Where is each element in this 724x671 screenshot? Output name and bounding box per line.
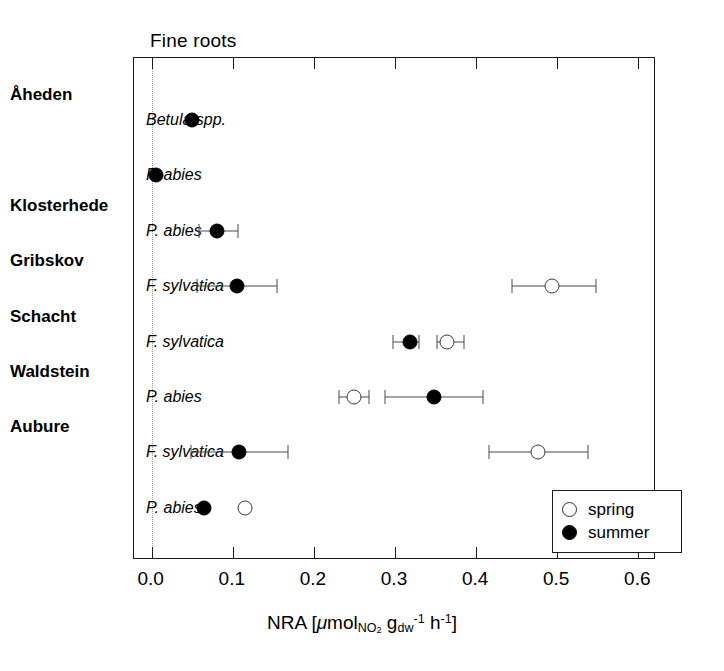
x-tick-label-2: 0.2	[300, 568, 326, 590]
plot-area: Betula spp.P. abiesP. abiesF. sylvaticaF…	[133, 57, 655, 559]
axis-title-h: h	[425, 612, 441, 633]
figure-root: Fine roots ÅhedenKlosterhedeGribskovScha…	[0, 0, 724, 671]
x-tick-label-5: 0.5	[543, 568, 569, 590]
error-cap-spring-5-low	[339, 390, 340, 404]
axis-title-sub-no: NO	[358, 621, 377, 635]
x-tick-label-3: 0.3	[381, 568, 407, 590]
x-tick-top-2	[314, 58, 315, 69]
x-tick-top-6	[638, 58, 639, 69]
legend-item-spring: spring	[562, 498, 672, 521]
site-label--heden: Åheden	[10, 85, 128, 105]
site-label-klosterhede: Klosterhede	[10, 196, 128, 216]
error-cap-spring-6-low	[489, 445, 490, 459]
x-tick-label-1: 0.1	[219, 568, 245, 590]
x-tick-label-4: 0.4	[462, 568, 488, 590]
x-tick-bottom-3	[395, 547, 396, 558]
x-tick-label-6: 0.6	[624, 568, 650, 590]
axis-title-mu: μ	[317, 612, 327, 633]
species-label-4: F. sylvatica	[146, 333, 224, 351]
panel-title: Fine roots	[150, 30, 236, 52]
error-cap-spring-3-high	[596, 279, 597, 293]
error-cap-spring-3-low	[511, 279, 512, 293]
axis-title-mol: mol	[327, 612, 358, 633]
legend-label-spring: spring	[588, 500, 634, 520]
data-point-spring-4[interactable]	[439, 334, 454, 349]
legend-label-summer: summer	[588, 523, 649, 543]
data-point-spring-3[interactable]	[545, 279, 560, 294]
x-tick-top-5	[557, 58, 558, 69]
error-cap-summer-5-low	[385, 390, 386, 404]
data-point-spring-7[interactable]	[237, 500, 252, 515]
axis-title-sup-neg1-a: -1	[413, 612, 424, 626]
site-label-schacht: Schacht	[10, 307, 128, 327]
site-label-aubure: Aubure	[10, 417, 128, 437]
data-point-summer-7[interactable]	[197, 500, 212, 515]
error-cap-summer-2-low	[198, 224, 199, 238]
legend: springsummer	[552, 490, 682, 553]
x-tick-bottom-1	[233, 547, 234, 558]
error-cap-summer-3-low	[197, 279, 198, 293]
species-label-5: P. abies	[146, 388, 202, 406]
error-cap-summer-6-high	[287, 445, 288, 459]
legend-item-summer: summer	[562, 521, 672, 544]
x-tick-top-1	[233, 58, 234, 69]
spring-marker-icon	[562, 502, 577, 517]
axis-title-prefix: NRA [	[267, 612, 317, 633]
x-tick-top-0	[152, 58, 153, 69]
species-label-7: P. abies	[146, 499, 202, 517]
error-cap-spring-4-low	[437, 335, 438, 349]
axis-title-sup-neg1-b: -1	[441, 612, 452, 626]
error-cap-summer-6-low	[190, 445, 191, 459]
x-tick-top-4	[476, 58, 477, 69]
x-tick-bottom-2	[314, 547, 315, 558]
species-label-2: P. abies	[146, 222, 202, 240]
data-point-summer-3[interactable]	[229, 279, 244, 294]
zero-reference-line	[152, 58, 153, 558]
x-tick-top-3	[395, 58, 396, 69]
error-cap-summer-5-high	[482, 390, 483, 404]
data-point-spring-5[interactable]	[346, 390, 361, 405]
summer-marker-icon	[562, 525, 577, 540]
error-cap-summer-2-high	[238, 224, 239, 238]
data-point-summer-1[interactable]	[148, 168, 163, 183]
data-point-spring-6[interactable]	[530, 445, 545, 460]
data-point-summer-2[interactable]	[209, 223, 224, 238]
error-cap-summer-4-high	[419, 335, 420, 349]
error-cap-spring-5-high	[369, 390, 370, 404]
error-cap-summer-3-high	[277, 279, 278, 293]
data-point-summer-4[interactable]	[402, 334, 417, 349]
site-label-waldstein: Waldstein	[10, 362, 128, 382]
x-tick-bottom-0	[152, 547, 153, 558]
data-point-summer-6[interactable]	[232, 445, 247, 460]
x-tick-label-0: 0.0	[137, 568, 163, 590]
error-cap-summer-4-low	[393, 335, 394, 349]
x-tick-bottom-4	[476, 547, 477, 558]
axis-title-g: g	[382, 612, 398, 633]
data-point-summer-5[interactable]	[426, 390, 441, 405]
error-cap-spring-4-high	[463, 335, 464, 349]
axis-title-suffix: ]	[452, 612, 457, 633]
site-label-gribskov: Gribskov	[10, 251, 128, 271]
x-axis-title: NRA [μmolNO2 gdw-1 h-1]	[0, 612, 724, 635]
data-point-summer-0[interactable]	[185, 113, 200, 128]
axis-title-sub-dw: dw	[397, 621, 413, 635]
error-cap-spring-6-high	[588, 445, 589, 459]
